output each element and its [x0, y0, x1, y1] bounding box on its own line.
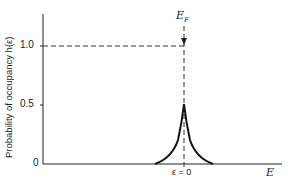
epsilon-zero-label: ε = 0 — [172, 167, 191, 177]
ef-label: EF — [176, 9, 189, 24]
y-axis-label: Probability of occupancy h(ε) — [3, 37, 14, 158]
chart-canvas — [0, 0, 288, 182]
x-axis-label: E — [266, 166, 274, 179]
arrow-down-icon — [181, 38, 187, 45]
tick-0-5: 0.5 — [20, 98, 34, 109]
tick-1-0: 1.0 — [20, 39, 34, 50]
tick-0: 0 — [33, 157, 39, 168]
